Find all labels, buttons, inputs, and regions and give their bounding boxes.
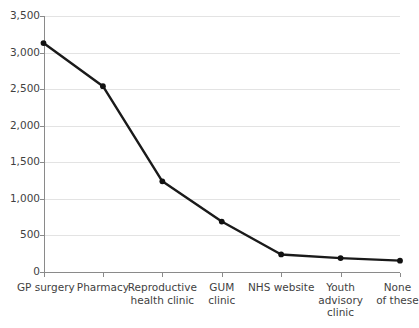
x-tick-label-line: advisory — [318, 294, 363, 307]
x-tick-label: Youthadvisoryclinic — [318, 281, 363, 319]
x-tick-label-line: Pharmacy — [77, 281, 129, 294]
x-tick-label: Noneof these — [376, 281, 419, 306]
x-tick-label-line: Youth — [318, 281, 363, 294]
x-tick-label: Reproductivehealth clinic — [128, 281, 197, 306]
x-tick-label-line: GUM — [208, 281, 235, 294]
x-tick-label-line: Reproductive — [128, 281, 197, 294]
x-tick-label-line: NHS website — [248, 281, 314, 294]
x-tick-label: NHS website — [248, 281, 314, 294]
x-tick-label-line: of these — [376, 294, 419, 307]
x-tick-label: GUMclinic — [208, 281, 235, 306]
x-tick-label-line: clinic — [208, 294, 235, 307]
x-tick-label-line: GP surgery — [17, 281, 75, 294]
x-tick-label-line: None — [376, 281, 419, 294]
x-tick-label: Pharmacy — [77, 281, 129, 294]
x-tick-label-line: health clinic — [128, 294, 197, 307]
x-tick-label-line: clinic — [318, 306, 363, 319]
x-tick-label: GP surgery — [17, 281, 75, 294]
